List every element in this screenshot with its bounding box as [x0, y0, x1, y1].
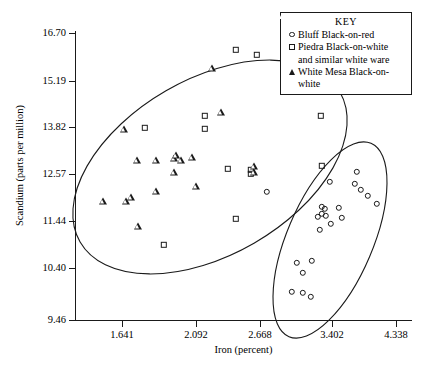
triangle-marker-icon	[120, 126, 128, 133]
data-point-circle	[354, 169, 360, 175]
x-tick	[396, 321, 397, 327]
y-tick-label-wrap: 13.82	[0, 122, 66, 133]
data-point-circle	[365, 193, 371, 199]
triangle-marker-icon	[152, 157, 160, 164]
triangle-marker-icon	[170, 169, 178, 176]
circle-marker-icon	[328, 221, 334, 227]
circle-marker-icon	[300, 270, 306, 276]
circle-marker-icon	[308, 294, 314, 300]
y-axis-line	[75, 31, 76, 321]
data-point-circle	[264, 189, 270, 195]
data-point-triangle	[170, 169, 178, 176]
data-point-triangle	[192, 183, 200, 190]
circle-marker-icon	[264, 189, 270, 195]
triangle-marker-icon	[133, 157, 141, 164]
legend-label: White Mesa Black-on-	[298, 66, 406, 78]
circle-marker-icon	[327, 179, 333, 185]
data-point-triangle	[188, 154, 196, 161]
triangle-marker-icon	[177, 157, 185, 164]
circle-marker-icon	[289, 289, 295, 295]
data-point-circle	[315, 214, 321, 220]
data-point-triangle	[152, 188, 160, 195]
square-marker-icon	[254, 52, 260, 58]
data-point-circle	[336, 205, 342, 211]
triangle-marker-icon	[208, 65, 216, 72]
legend-entry: White Mesa Black-on-	[286, 66, 406, 78]
y-tick-label: 9.46	[0, 315, 66, 326]
data-point-square	[318, 113, 324, 119]
legend-label: Bluff Black-on-red	[298, 29, 406, 41]
data-point-triangle	[217, 109, 225, 116]
circle-marker-icon	[374, 201, 380, 207]
circle-marker-icon	[317, 227, 323, 233]
square-marker-icon	[233, 47, 239, 53]
y-tick	[69, 221, 75, 222]
legend-symbol	[286, 29, 298, 37]
circle-marker-icon	[365, 193, 371, 199]
legend-label-continued: white	[286, 78, 406, 90]
data-point-circle	[289, 289, 295, 295]
y-tick-label: 15.19	[0, 76, 66, 87]
y-tick-label: 13.82	[0, 122, 66, 133]
y-tick	[69, 268, 75, 269]
triangle-marker-icon	[152, 188, 160, 195]
triangle-marker-icon	[192, 183, 200, 190]
x-tick-label: 4.338	[384, 329, 408, 340]
x-tick-label: 2.668	[248, 329, 272, 340]
scatter-chart: 16.7015.1913.8212.5711.4410.409.46 1.641…	[0, 0, 425, 374]
square-marker-icon	[318, 113, 324, 119]
y-tick-label-wrap: 11.44	[0, 216, 66, 227]
triangle-marker-icon	[217, 109, 225, 116]
circle-marker-icon	[294, 260, 300, 266]
data-point-circle	[317, 227, 323, 233]
square-marker-icon	[202, 126, 208, 132]
circle-marker-icon	[339, 215, 345, 221]
x-tick-label: 1.641	[110, 329, 134, 340]
data-point-circle	[374, 201, 380, 207]
square-marker-icon	[289, 44, 294, 49]
x-tick	[260, 321, 261, 327]
x-tick-label: 2.092	[184, 329, 208, 340]
y-tick-label-wrap: 9.46	[0, 315, 66, 326]
data-point-triangle	[99, 198, 107, 205]
data-point-circle	[339, 215, 345, 221]
data-point-triangle	[250, 169, 258, 176]
y-tick	[69, 174, 75, 175]
data-point-triangle	[120, 126, 128, 133]
data-point-square	[202, 126, 208, 132]
y-tick-label-wrap: 12.57	[0, 169, 66, 180]
circle-marker-icon	[323, 213, 329, 219]
y-tick	[69, 320, 75, 321]
data-point-square	[233, 47, 239, 53]
data-point-circle	[308, 294, 314, 300]
data-point-square	[233, 216, 239, 222]
circle-marker-icon	[309, 258, 315, 264]
triangle-marker-icon	[250, 169, 258, 176]
data-point-square	[254, 52, 260, 58]
data-point-triangle	[133, 157, 141, 164]
data-point-circle	[300, 270, 306, 276]
square-marker-icon	[142, 125, 148, 131]
circle-marker-icon	[300, 290, 306, 296]
data-point-square	[319, 163, 325, 169]
square-marker-icon	[319, 163, 325, 169]
x-axis-line	[75, 320, 412, 321]
data-point-triangle	[208, 65, 216, 72]
data-point-circle	[309, 258, 315, 264]
y-tick	[69, 127, 75, 128]
data-point-square	[225, 166, 231, 172]
data-point-circle	[328, 221, 334, 227]
y-tick-label: 10.40	[0, 263, 66, 274]
data-point-triangle	[134, 223, 142, 230]
circle-marker-icon	[315, 214, 321, 220]
data-point-circle	[358, 187, 364, 193]
legend-title: KEY	[286, 16, 406, 28]
legend-entries: Bluff Black-on-redPiedra Black-on-whitea…	[286, 29, 406, 90]
y-tick-label-wrap: 10.40	[0, 263, 66, 274]
y-tick-label: 12.57	[0, 169, 66, 180]
x-tick-label: 3.402	[320, 329, 344, 340]
x-tick	[332, 321, 333, 327]
data-point-triangle	[152, 157, 160, 164]
triangle-marker-icon	[127, 194, 135, 201]
circle-marker-icon	[358, 187, 364, 193]
